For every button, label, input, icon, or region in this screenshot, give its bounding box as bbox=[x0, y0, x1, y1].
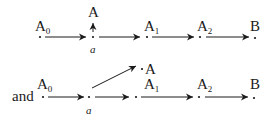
node-label-a0: A0 bbox=[37, 76, 53, 94]
sequence-diagram: A0 A a A1 A2 B and A0 a A A1 A2 B bbox=[0, 0, 273, 121]
branch-label-a: A bbox=[88, 4, 99, 20]
branch-label-a: A bbox=[145, 61, 156, 77]
node-label-a0: A0 bbox=[35, 18, 51, 36]
node-label-a1: A1 bbox=[144, 18, 159, 36]
node-label-a2: A2 bbox=[197, 18, 212, 36]
node-label-a2: A2 bbox=[197, 76, 212, 94]
node-label-a: a bbox=[90, 43, 96, 55]
node-label-a1: A1 bbox=[144, 76, 159, 94]
node-dot-b bbox=[254, 37, 256, 39]
node-dot-a1 bbox=[146, 36, 148, 38]
prefix-and: and bbox=[12, 88, 34, 104]
node-label-b: B bbox=[250, 18, 260, 34]
row-1: A0 A a A1 A2 B bbox=[35, 4, 260, 55]
node-label-b: B bbox=[250, 76, 260, 92]
node-dot-a bbox=[88, 96, 90, 98]
node-dot-a0 bbox=[42, 96, 44, 98]
node-dot-a2 bbox=[199, 36, 201, 38]
node-dot-b bbox=[253, 97, 255, 99]
node-label-a: a bbox=[86, 104, 92, 116]
node-dot-a1 bbox=[135, 96, 137, 98]
node-dot-a0 bbox=[39, 36, 41, 38]
row-2: and A0 a A A1 A2 B bbox=[12, 61, 260, 116]
node-dot-a bbox=[92, 36, 94, 38]
branch-dot bbox=[141, 68, 143, 70]
node-dot-a2 bbox=[198, 96, 200, 98]
arrow-a-to-branch bbox=[92, 66, 136, 88]
